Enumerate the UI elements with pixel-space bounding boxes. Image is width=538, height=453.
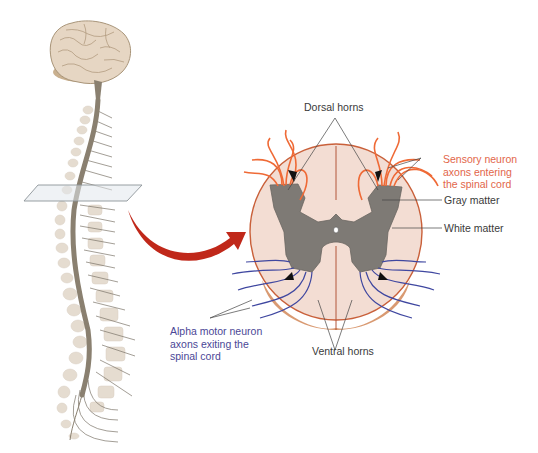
label-ventral-horns: Ventral horns <box>312 345 374 358</box>
label-gray-matter: Gray matter <box>444 194 499 207</box>
label-alpha-motor-neuron-axons: Alpha motor neuron axons exiting the spi… <box>170 325 262 363</box>
label-sensory-neuron-axons: Sensory neuron axons entering the spinal… <box>443 153 517 191</box>
brain-illustration <box>50 21 130 100</box>
curved-arrow <box>128 210 246 261</box>
spinal-cord-cross-section <box>250 144 422 330</box>
cross-section-plane <box>24 185 142 201</box>
label-white-matter: White matter <box>444 222 504 235</box>
vertebral-column <box>55 106 125 439</box>
label-dorsal-horns: Dorsal horns <box>304 101 364 114</box>
